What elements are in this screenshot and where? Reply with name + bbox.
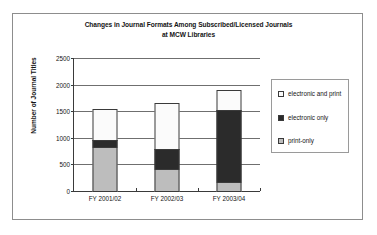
x-tick-mark	[260, 188, 261, 191]
y-tick-label: 500	[59, 161, 70, 168]
chart-frame: Changes in Journal Formats Among Subscri…	[12, 13, 363, 220]
chart-title-line-1: Changes in Journal Formats Among Subscri…	[85, 21, 293, 28]
chart-legend: electronic and printelectronic onlyprint…	[271, 79, 349, 153]
stacked-bar[interactable]	[217, 90, 242, 191]
bar-segment-electronic-only[interactable]	[217, 110, 242, 183]
legend-label: print-only	[288, 137, 314, 144]
y-tick-label: 0	[66, 188, 70, 195]
x-tick-label: FY 2001/02	[70, 195, 140, 202]
bar-segment-electronic-and-print[interactable]	[155, 103, 180, 150]
legend-item-electronic-and-print[interactable]: electronic and print	[278, 90, 341, 97]
bar-segment-electronic-and-print[interactable]	[217, 90, 242, 111]
y-tick-mark	[71, 191, 74, 192]
legend-swatch-icon	[278, 115, 284, 121]
x-tick-label: FY 2003/04	[194, 195, 264, 202]
chart-title: Changes in Journal Formats Among Subscri…	[13, 20, 364, 40]
y-tick-label: 2500	[56, 55, 70, 62]
chart-title-line-2: at MCW Libraries	[13, 30, 364, 40]
x-tick-mark	[136, 188, 137, 191]
stacked-bar[interactable]	[155, 103, 180, 191]
y-tick-label: 1500	[56, 108, 70, 115]
legend-item-print-only[interactable]: print-only	[278, 137, 314, 144]
y-tick-label: 1000	[56, 134, 70, 141]
bar-group	[74, 58, 136, 191]
bar-segment-print-only[interactable]	[217, 182, 242, 192]
plot-area: 05001000150020002500FY 2001/02FY 2002/03…	[73, 58, 260, 192]
bar-segment-electronic-only[interactable]	[155, 149, 180, 170]
bar-segment-print-only[interactable]	[155, 169, 180, 192]
bar-group	[198, 58, 260, 191]
legend-swatch-icon	[278, 91, 284, 97]
bar-segment-electronic-and-print[interactable]	[93, 109, 118, 141]
bar-group	[136, 58, 198, 191]
legend-item-electronic-only[interactable]: electronic only	[278, 114, 328, 121]
legend-label: electronic only	[288, 114, 328, 121]
x-tick-label: FY 2002/03	[132, 195, 202, 202]
legend-swatch-icon	[278, 138, 284, 144]
legend-label: electronic and print	[288, 90, 341, 97]
stacked-bar[interactable]	[93, 109, 118, 191]
y-tick-label: 2000	[56, 81, 70, 88]
x-tick-mark	[198, 188, 199, 191]
bar-segment-print-only[interactable]	[93, 147, 118, 192]
y-axis-title: Number of Journal Titles	[30, 41, 37, 151]
